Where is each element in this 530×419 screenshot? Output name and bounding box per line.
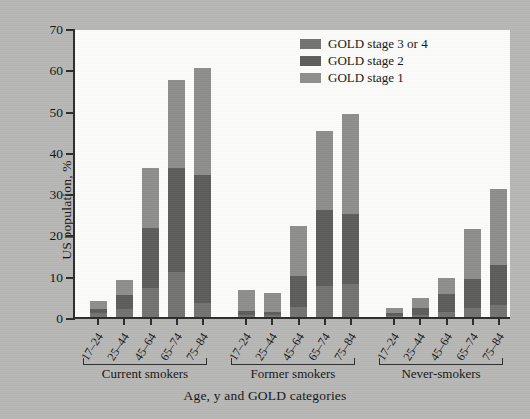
bar-segment-stage-1 <box>142 168 159 229</box>
legend-item: GOLD stage 3 or 4 <box>300 36 428 51</box>
bar-segment-stage-3-or-4 <box>194 303 211 317</box>
bar-segment-stage-3-or-4 <box>464 308 481 317</box>
bar-segment-stage-3-or-4 <box>490 305 507 317</box>
y-axis-tick <box>66 277 75 279</box>
x-axis-tick <box>176 317 178 325</box>
x-axis-tick <box>245 317 247 325</box>
x-axis-tick <box>446 317 448 325</box>
bar-stack <box>412 298 429 317</box>
y-axis-tick-label: 40 <box>50 147 64 161</box>
legend-swatch <box>300 39 321 49</box>
y-axis-tick <box>66 153 75 155</box>
x-axis-tick <box>97 317 99 325</box>
y-axis-tick-label: 50 <box>50 106 64 120</box>
group-bracket <box>231 358 356 365</box>
bar-segment-stage-3-or-4 <box>290 307 307 317</box>
bar-segment-stage-1 <box>412 298 429 307</box>
bar-segment-stage-1 <box>316 131 333 209</box>
legend-swatch <box>300 56 321 66</box>
bar-segment-stage-3-or-4 <box>316 286 333 317</box>
bar-segment-stage-1 <box>342 114 359 214</box>
y-axis-tick-label: 10 <box>50 271 64 285</box>
bar-segment-stage-3-or-4 <box>142 288 159 317</box>
bar-segment-stage-2 <box>290 276 307 307</box>
chart-legend: GOLD stage 3 or 4GOLD stage 2GOLD stage … <box>300 36 428 87</box>
bar-stack <box>142 168 159 317</box>
bar-segment-stage-3-or-4 <box>168 272 185 317</box>
bar-segment-stage-3-or-4 <box>342 284 359 317</box>
bar-segment-stage-1 <box>194 68 211 175</box>
bar-stack <box>264 293 281 317</box>
plot-area: 010203040506070 <box>75 30 510 317</box>
legend-label: GOLD stage 3 or 4 <box>328 37 428 50</box>
bar-segment-stage-1 <box>464 229 481 279</box>
bar-segment-stage-2 <box>412 308 429 315</box>
x-axis-tick <box>472 317 474 325</box>
x-axis-tick <box>419 317 421 325</box>
bar-segment-stage-1 <box>264 293 281 312</box>
y-axis-tick <box>66 112 75 114</box>
bar-segment-stage-2 <box>342 214 359 284</box>
group-label: Former smokers <box>231 367 356 381</box>
bar-segment-stage-3-or-4 <box>116 309 133 317</box>
legend-label: GOLD stage 2 <box>328 54 404 67</box>
bar-stack <box>438 278 455 317</box>
y-axis-tick <box>66 70 75 72</box>
bar-segment-stage-1 <box>238 290 255 311</box>
bar-segment-stage-1 <box>90 301 107 308</box>
y-axis-tick <box>66 29 75 31</box>
bar-stack <box>386 308 403 317</box>
y-axis-tick-label: 20 <box>50 230 64 244</box>
x-axis-title: Age, y and GOLD categories <box>0 388 530 404</box>
y-axis-tick-label: 30 <box>50 188 64 202</box>
x-axis-tick <box>350 317 352 325</box>
group-bracket <box>83 358 208 365</box>
legend-label: GOLD stage 1 <box>328 71 404 84</box>
bar-stack <box>90 301 107 317</box>
x-axis-tick <box>202 317 204 325</box>
bar-segment-stage-1 <box>290 226 307 276</box>
group-label: Current smokers <box>83 367 208 381</box>
bar-segment-stage-2 <box>194 175 211 303</box>
x-axis-tick <box>271 317 273 325</box>
bar-segment-stage-1 <box>168 80 185 168</box>
y-axis-tick-label: 0 <box>56 312 63 326</box>
bar-stack <box>316 131 333 317</box>
legend-item: GOLD stage 2 <box>300 53 428 68</box>
bar-stack <box>238 290 255 317</box>
x-axis-tick <box>150 317 152 325</box>
bar-segment-stage-1 <box>116 280 133 295</box>
bar-segment-stage-2 <box>490 265 507 305</box>
bar-segment-stage-2 <box>316 210 333 286</box>
y-axis-tick-label: 60 <box>50 65 64 79</box>
bar-segment-stage-2 <box>464 279 481 308</box>
x-axis-tick <box>123 317 125 325</box>
x-axis-tick <box>498 317 500 325</box>
bar-segment-stage-2 <box>168 168 185 271</box>
y-axis-tick-label: 70 <box>50 23 64 37</box>
bar-segment-stage-2 <box>116 295 133 309</box>
figure-panel: US population, % 010203040506070 Age, y … <box>0 0 530 419</box>
bar-segment-stage-1 <box>490 189 507 265</box>
bar-stack <box>464 229 481 317</box>
y-axis-tick <box>66 318 75 320</box>
legend-swatch <box>300 73 321 83</box>
bar-segment-stage-2 <box>142 228 159 288</box>
bar-segment-stage-1 <box>438 278 455 295</box>
x-axis-tick <box>298 317 300 325</box>
x-axis-tick <box>393 317 395 325</box>
plot-frame: 010203040506070 <box>73 30 510 319</box>
bar-stack <box>168 80 185 317</box>
bar-stack <box>290 226 307 317</box>
bar-stack <box>194 68 211 317</box>
bar-stack <box>490 189 507 317</box>
group-label: Never-smokers <box>379 367 504 381</box>
bar-stack <box>342 114 359 317</box>
y-axis-tick <box>66 194 75 196</box>
y-axis-tick <box>66 235 75 237</box>
x-axis-tick <box>324 317 326 325</box>
bar-segment-stage-2 <box>438 294 455 312</box>
bar-stack <box>116 280 133 317</box>
group-bracket <box>379 358 504 365</box>
legend-item: GOLD stage 1 <box>300 70 428 85</box>
